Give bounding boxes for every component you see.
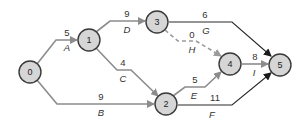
edge-h: 0 H	[165, 29, 221, 56]
edge-e-label: E	[191, 90, 198, 101]
edge-c-arrow	[96, 48, 158, 96]
edge-f-duration: 11	[210, 92, 220, 103]
node-2: 2	[155, 93, 177, 115]
edge-a-label: A	[63, 42, 70, 53]
node-4: 4	[219, 53, 241, 75]
network-diagram: 5 A 9 B 4 C 9 D 5 E 11 F 6 G 0 H	[0, 0, 304, 127]
edge-b-duration: 9	[98, 91, 103, 102]
node-2-label: 2	[163, 99, 168, 109]
node-0-label: 0	[27, 67, 32, 77]
edge-i-duration: 8	[252, 51, 257, 62]
edge-f-label: F	[209, 109, 216, 120]
edge-g: 6 G	[169, 9, 271, 56]
node-1-label: 1	[86, 35, 91, 45]
edge-d-label: D	[124, 24, 131, 35]
node-3-label: 3	[154, 17, 159, 27]
node-1: 1	[78, 29, 100, 51]
edge-b: 9 B	[37, 80, 154, 118]
edge-b-label: B	[98, 107, 105, 118]
node-5-label: 5	[277, 60, 282, 70]
edge-c: 4 C	[96, 48, 158, 96]
edge-g-label: G	[202, 25, 209, 36]
edge-h-duration: 0	[189, 29, 194, 40]
edge-i-label: I	[253, 67, 256, 78]
node-5: 5	[269, 54, 291, 76]
edge-e-duration: 5	[192, 74, 197, 85]
edge-a-duration: 5	[64, 27, 69, 38]
node-0: 0	[19, 61, 41, 83]
edge-c-duration: 4	[120, 57, 125, 68]
edge-d-arrow	[96, 21, 145, 32]
edge-d-duration: 9	[124, 8, 129, 19]
node-3: 3	[146, 11, 168, 33]
edge-b-arrow	[37, 80, 154, 104]
edge-c-label: C	[120, 73, 127, 84]
edge-a-arrow	[37, 40, 77, 64]
edge-h-label: H	[189, 44, 196, 55]
edge-i: 8 I	[242, 51, 268, 78]
edge-g-duration: 6	[202, 9, 207, 20]
edge-d: 9 D	[96, 8, 145, 35]
edge-a: 5 A	[37, 27, 77, 64]
node-4-label: 4	[227, 59, 232, 69]
